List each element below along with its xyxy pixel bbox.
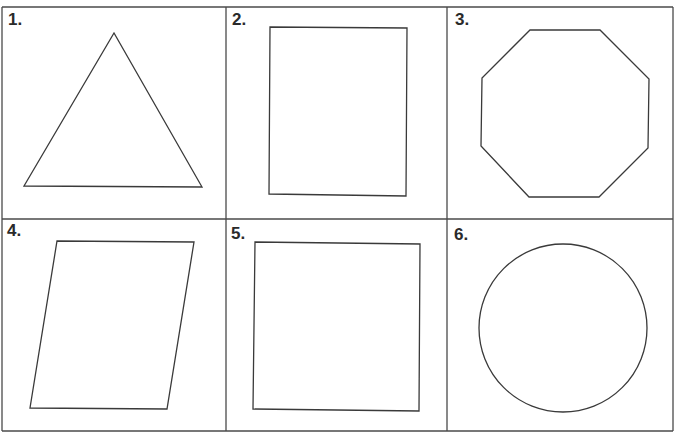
cell-4-number: 4. bbox=[7, 222, 21, 239]
parallelogram-shape bbox=[30, 241, 194, 409]
cell-6-number: 6. bbox=[454, 226, 468, 243]
octagon-shape bbox=[481, 30, 649, 197]
cell-1-number: 1. bbox=[8, 11, 22, 28]
grid-lines bbox=[2, 7, 673, 431]
triangle-shape bbox=[24, 33, 202, 187]
cell-2-number: 2. bbox=[232, 11, 246, 28]
cell-5-number: 5. bbox=[231, 225, 245, 242]
circle-shape bbox=[479, 244, 647, 412]
rectangle-shape bbox=[269, 27, 407, 196]
shapes-worksheet: 1. 2. 3. 4. 5. 6. bbox=[0, 0, 675, 434]
cell-3-number: 3. bbox=[455, 11, 469, 28]
shapes-grid-drawing bbox=[0, 0, 675, 434]
square-shape bbox=[253, 242, 420, 411]
